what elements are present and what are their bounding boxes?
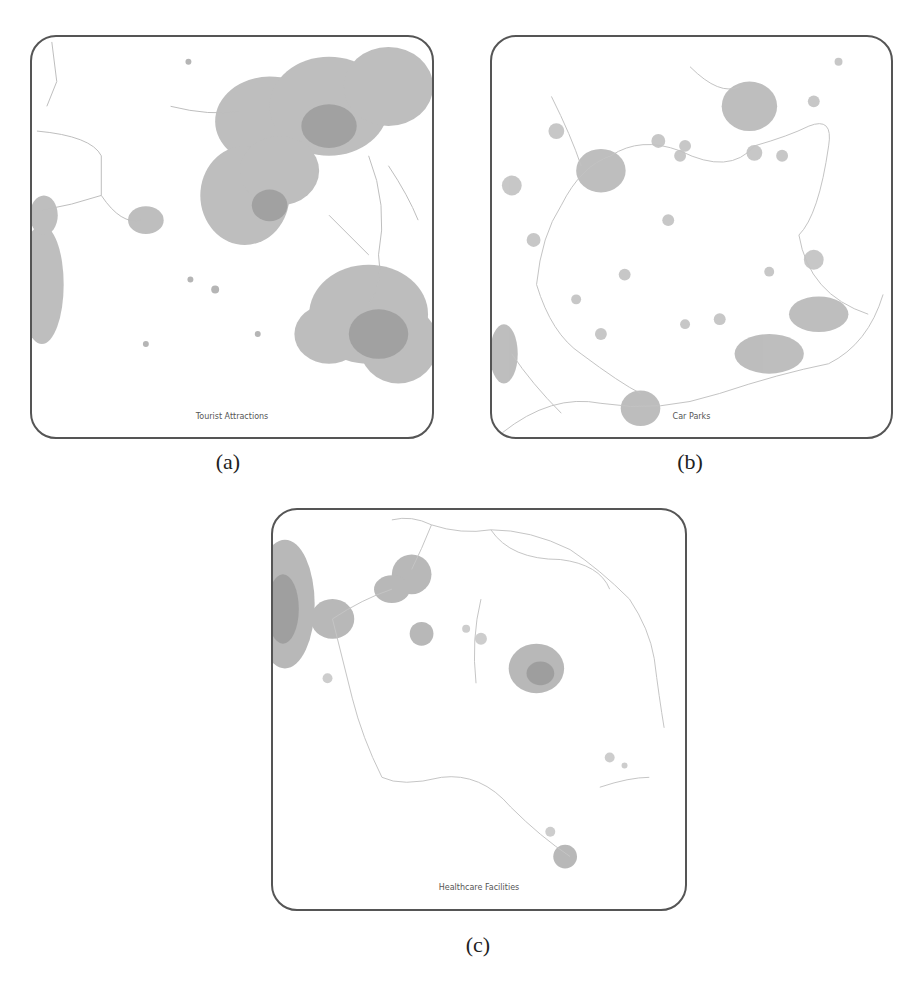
map-panel-tourist-attractions: Tourist Attractions [30,35,434,439]
accessibility-map-c [273,510,685,909]
subfigure-caption-c: (c) [448,932,508,958]
accessibility-map-b [492,37,891,437]
map-label: Car Parks [492,412,891,421]
map-panel-car-parks: Car Parks [490,35,893,439]
map-label: Tourist Attractions [32,412,432,421]
subfigure-caption-a: (a) [198,449,258,475]
accessibility-map-a [32,37,432,437]
map-label: Healthcare Facilities [273,883,685,892]
subfigure-caption-b: (b) [660,449,720,475]
map-panel-healthcare-facilities: Healthcare Facilities [271,508,687,911]
